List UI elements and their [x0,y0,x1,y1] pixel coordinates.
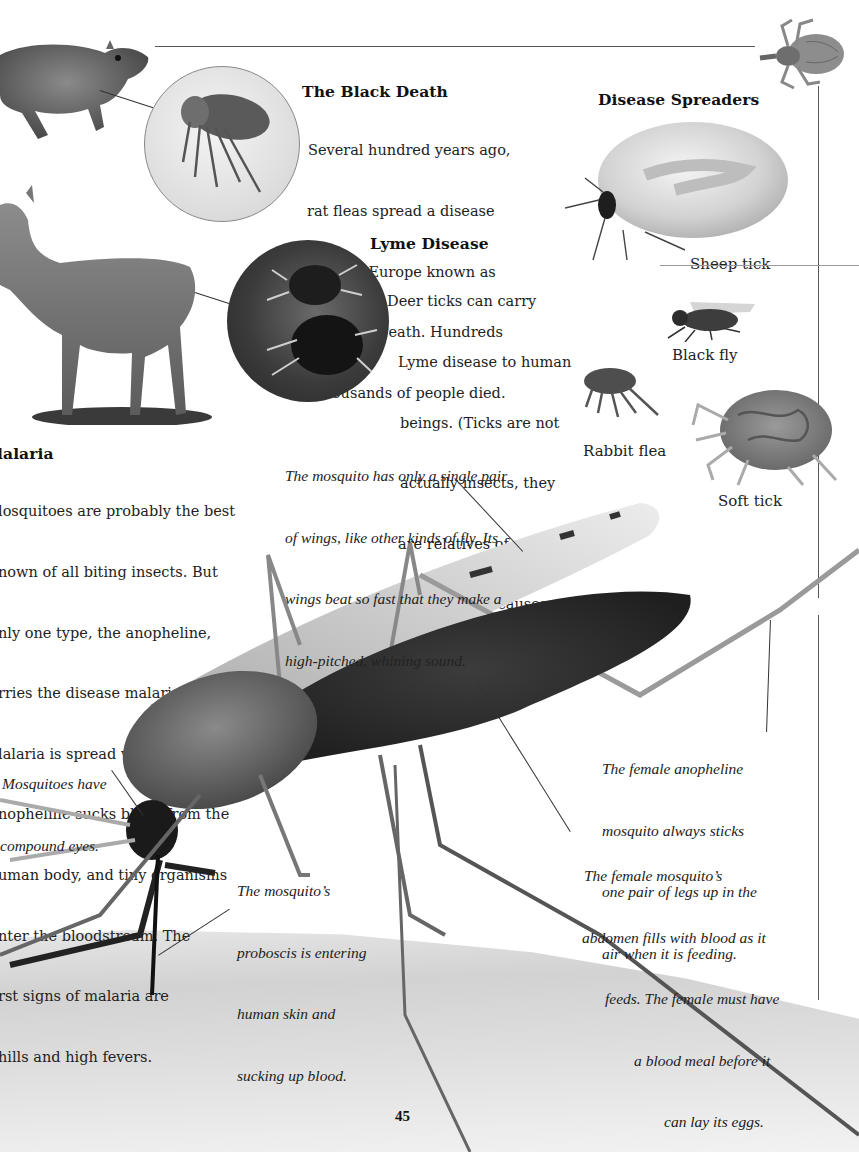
rat-illustration [0,35,155,150]
eyes-caption: Mosquitoes have compound eyes. [0,733,107,877]
text-line: Several hundred years ago, [298,140,538,160]
text-line: wings beat so fast that they make a [285,589,507,610]
sheep-tick-strike-line [660,265,859,266]
black-death-heading: The Black Death [302,82,448,101]
text-line: rat fleas spread a disease [298,201,538,221]
top-rule [155,46,755,47]
page-number: 45 [395,1108,410,1125]
text-line: The female mosquito’s [582,866,779,887]
text-line: high-pitched, whining sound. [285,651,507,672]
text-line: Deer ticks can carry [360,291,590,311]
louse-illustration [758,12,848,92]
text-line: abdomen fills with blood as it [582,928,779,949]
rabbit-flea-label: Rabbit flea [583,442,666,460]
sheep-tick-illustration [565,120,795,265]
text-line: a blood meal before it [582,1051,779,1072]
proboscis-caption: The mosquito’s proboscis is entering hum… [237,840,366,1107]
text-line: of wings, like other kinds of fly. Its [285,528,507,549]
text-line: The female anopheline [602,759,757,780]
text-line: The mosquito’s [237,881,366,902]
soft-tick-illustration [688,385,838,490]
text-line: The mosquito has only a single pair [285,466,507,487]
text-line: sucking up blood. [237,1066,366,1087]
deer-illustration [0,185,215,425]
rabbit-flea-illustration [580,365,665,425]
text-line: compound eyes. [0,836,107,857]
text-line: Mosquitoes have [0,774,107,795]
text-line: proboscis is entering [237,943,366,964]
black-fly-label: Black fly [672,346,738,364]
text-line: can lay its eggs. [582,1112,779,1133]
wings-caption: The mosquito has only a single pair of w… [285,425,507,692]
text-line: human skin and [237,1004,366,1025]
black-fly-illustration [650,292,760,342]
text-line: feeds. The female must have [582,989,779,1010]
sheep-tick-label: Sheep tick [690,255,770,273]
abdomen-caption: The female mosquito’s abdomen fills with… [582,825,779,1152]
text-line: Lyme disease to human [360,352,590,372]
disease-spreaders-heading: Disease Spreaders [598,90,759,109]
